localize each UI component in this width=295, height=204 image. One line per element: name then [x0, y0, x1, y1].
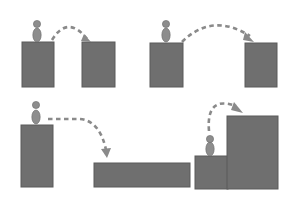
person-figure-icon: [33, 20, 41, 42]
arrowhead-icon: [101, 148, 111, 158]
panel-climb-to-higher-platform: [195, 102, 278, 189]
panel-drop-to-lower-platform: [21, 101, 190, 187]
person-figure-icon: [162, 20, 170, 42]
platform-block: [22, 42, 54, 87]
platform-block: [195, 156, 228, 189]
platform-block: [82, 42, 115, 87]
platform-block: [94, 163, 190, 187]
platform-jump-diagram: [0, 0, 295, 204]
arrowhead-icon: [231, 102, 243, 113]
platform-block: [150, 43, 183, 87]
arrowhead-icon: [81, 34, 91, 42]
person-figure-icon: [206, 135, 214, 156]
platform-block: [245, 43, 277, 87]
platform-block: [21, 125, 53, 187]
panel-jump-across-gap-far: [150, 20, 277, 87]
person-figure-icon: [32, 101, 40, 124]
jump-trajectory-arrow: [182, 25, 250, 42]
platform-block: [227, 116, 278, 189]
jump-trajectory-arrow: [48, 119, 106, 150]
arrowhead-icon: [243, 32, 254, 42]
panel-jump-across-gap-near: [22, 20, 115, 87]
